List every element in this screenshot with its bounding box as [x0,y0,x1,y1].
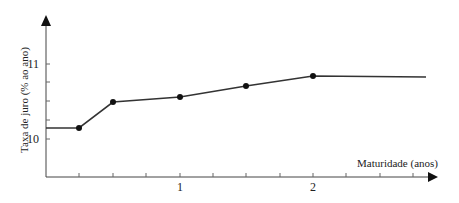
x-axis-label: Maturidade (anos) [357,157,438,170]
x-tick-label-2: 2 [310,180,316,194]
x-ticks [79,173,413,177]
y-axis-arrow-icon [41,15,51,26]
data-point [110,99,116,105]
data-point [177,94,183,100]
data-point [310,73,316,79]
data-point [76,125,82,131]
yield-curve-line [46,76,426,128]
data-point [243,83,249,89]
x-axis-arrow-icon [428,172,438,182]
yield-curve-chart: 1 2 11 10 Maturidade (anos) Taxa de juro… [0,0,459,203]
y-axis-label: Taxa de juro (% ao ano) [18,47,31,153]
x-tick-label-1: 1 [177,180,183,194]
